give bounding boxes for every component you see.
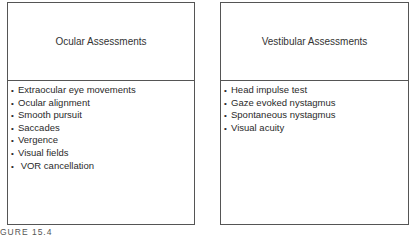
- list-item: Extraocular eye movements: [11, 84, 194, 97]
- box-title: Ocular Assessments: [8, 3, 194, 81]
- list-item: Ocular alignment: [11, 97, 194, 110]
- list-item: Saccades: [11, 122, 194, 135]
- list-item: Head impulse test: [224, 84, 408, 97]
- figure-caption: GURE 15.4: [0, 227, 52, 235]
- list-item: Smooth pursuit: [11, 109, 194, 122]
- ocular-assessments-box: Ocular Assessments Extraocular eye movem…: [7, 2, 195, 225]
- list-item: Spontaneous nystagmus: [224, 109, 408, 122]
- list-item: VOR cancellation: [11, 160, 194, 173]
- vestibular-assessments-box: Vestibular Assessments Head impulse test…: [220, 2, 409, 225]
- ocular-list: Extraocular eye movements Ocular alignme…: [8, 81, 194, 172]
- box-title: Vestibular Assessments: [221, 3, 408, 81]
- list-item: Vergence: [11, 134, 194, 147]
- list-item: Gaze evoked nystagmus: [224, 97, 408, 110]
- list-item: Visual fields: [11, 147, 194, 160]
- vestibular-list: Head impulse test Gaze evoked nystagmus …: [221, 81, 408, 134]
- list-item: Visual acuity: [224, 122, 408, 135]
